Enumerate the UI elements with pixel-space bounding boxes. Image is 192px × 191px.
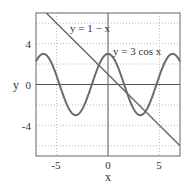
chart: y = 1 − x y = 3 cos x -5 0 5 4 0 -4 x y — [0, 0, 192, 191]
label-cos: y = 3 cos x — [113, 45, 162, 57]
label-line: y = 1 − x — [70, 22, 110, 34]
y-axis-label: y — [13, 78, 19, 92]
x-axis-label: x — [105, 170, 111, 184]
zero-axes — [36, 13, 180, 156]
y-tick-neg4: -4 — [22, 120, 32, 132]
x-tick-5: 5 — [156, 159, 162, 171]
y-tick-0: 0 — [26, 79, 32, 91]
series-line-1-minus-x — [46, 13, 180, 146]
x-tick-neg5: -5 — [51, 159, 61, 171]
y-tick-4: 4 — [26, 38, 32, 50]
